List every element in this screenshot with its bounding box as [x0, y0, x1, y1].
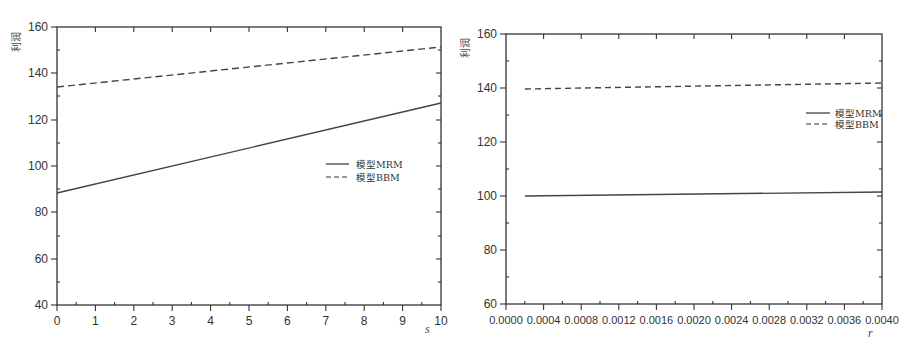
svg-text:4: 4: [207, 314, 214, 328]
svg-text:0.0036: 0.0036: [828, 314, 862, 326]
svg-text:3: 3: [169, 314, 176, 328]
svg-text:10: 10: [434, 314, 448, 328]
right-series-mrm-line: [525, 192, 882, 196]
right-chart: 60 80 100 120 140 160 0.0000: [459, 27, 899, 340]
right-plot-frame: [506, 34, 882, 304]
left-chart: 40 60 80 100 120 140 160: [10, 20, 448, 336]
svg-text:9: 9: [399, 314, 406, 328]
svg-text:0.0004: 0.0004: [527, 314, 561, 326]
svg-text:60: 60: [35, 252, 49, 266]
svg-text:8: 8: [361, 314, 368, 328]
left-series-bbm-line: [57, 47, 441, 87]
right-x-tick-labels: 0.0000 0.0004 0.0008 0.0012 0.0016 0.002…: [489, 314, 899, 326]
svg-text:120: 120: [28, 113, 48, 127]
svg-text:0.0028: 0.0028: [752, 314, 786, 326]
svg-text:0.0032: 0.0032: [790, 314, 824, 326]
svg-text:160: 160: [28, 20, 48, 34]
left-x-axis-label: s: [425, 322, 430, 336]
svg-text:140: 140: [28, 66, 48, 80]
svg-text:0.0024: 0.0024: [715, 314, 749, 326]
svg-text:140: 140: [477, 81, 497, 95]
svg-text:80: 80: [35, 205, 49, 219]
left-y-axis-label: 利润: [10, 32, 22, 52]
right-x-ticks: [506, 34, 882, 310]
right-legend-mrm: 模型MRM: [835, 108, 882, 119]
svg-text:100: 100: [28, 159, 48, 173]
svg-text:0.0008: 0.0008: [564, 314, 598, 326]
right-y-axis-label: 利润: [459, 38, 471, 58]
svg-text:5: 5: [246, 314, 253, 328]
right-legend: 模型MRM 模型BBM: [806, 108, 882, 130]
right-legend-bbm: 模型BBM: [835, 119, 879, 130]
left-x-tick-labels: 0 1 2 3 4 5 6 7 8 9 10: [54, 314, 448, 328]
left-y-tick-labels: 40 60 80 100 120 140 160: [28, 20, 48, 312]
right-y-ticks: [500, 34, 882, 304]
svg-text:1: 1: [92, 314, 99, 328]
left-legend: 模型MRM 模型BBM: [326, 159, 403, 183]
svg-text:7: 7: [322, 314, 329, 328]
svg-text:80: 80: [484, 243, 498, 257]
svg-text:0.0012: 0.0012: [602, 314, 636, 326]
svg-text:60: 60: [484, 297, 498, 311]
svg-text:40: 40: [35, 298, 49, 312]
svg-text:0.0016: 0.0016: [640, 314, 674, 326]
left-legend-mrm: 模型MRM: [356, 159, 403, 170]
svg-text:6: 6: [284, 314, 291, 328]
svg-text:0.0020: 0.0020: [677, 314, 711, 326]
svg-text:0.0040: 0.0040: [865, 314, 899, 326]
right-series-bbm-line: [525, 83, 882, 89]
left-legend-bbm: 模型BBM: [356, 172, 400, 183]
svg-text:160: 160: [477, 27, 497, 41]
svg-text:2: 2: [130, 314, 137, 328]
svg-text:120: 120: [477, 135, 497, 149]
svg-text:100: 100: [477, 189, 497, 203]
right-x-axis-label: r: [868, 326, 873, 340]
svg-text:0: 0: [54, 314, 61, 328]
figure: 40 60 80 100 120 140 160: [0, 0, 918, 361]
svg-text:0.0000: 0.0000: [489, 314, 523, 326]
right-y-tick-labels: 60 80 100 120 140 160: [477, 27, 497, 311]
